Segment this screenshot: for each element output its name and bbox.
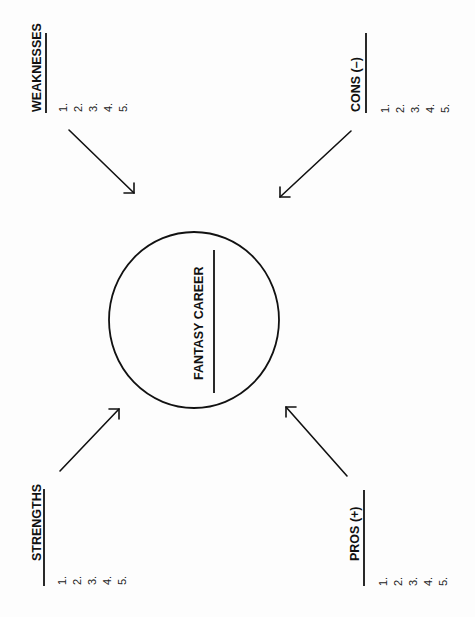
- pros-item-2[interactable]: 2.: [392, 577, 404, 586]
- strengths-item-4[interactable]: 4.: [101, 576, 113, 585]
- weaknesses-item-2[interactable]: 2.: [72, 103, 84, 112]
- strengths-item-5[interactable]: 5.: [116, 576, 128, 585]
- strengths-title: STRENGTHS: [30, 484, 44, 561]
- weaknesses-item-3[interactable]: 3.: [87, 103, 99, 112]
- cons-title: CONS (–): [349, 57, 363, 112]
- fantasy-career-title: FANTASY CAREER: [192, 267, 206, 380]
- pros-item-1[interactable]: 1.: [377, 577, 389, 586]
- career-worksheet: WEAKNESSES 1. 2. 3. 4. 5. CONS (–) 1. 2.…: [0, 0, 475, 617]
- fantasy-career-circle: FANTASY CAREER: [109, 232, 279, 408]
- weaknesses-title: WEAKNESSES: [30, 23, 44, 112]
- weaknesses-section: WEAKNESSES 1. 2. 3. 4. 5.: [30, 23, 129, 113]
- worksheet-diagram: WEAKNESSES 1. 2. 3. 4. 5. CONS (–) 1. 2.…: [0, 0, 475, 617]
- cons-item-3[interactable]: 3.: [409, 104, 421, 113]
- strengths-section: STRENGTHS 1. 2. 3. 4. 5.: [30, 484, 128, 586]
- weaknesses-item-5[interactable]: 5.: [117, 103, 129, 112]
- cons-item-5[interactable]: 5.: [439, 104, 451, 113]
- pros-item-4[interactable]: 4.: [422, 577, 434, 586]
- weaknesses-item-1[interactable]: 1.: [57, 103, 69, 112]
- cons-arrow-icon: [280, 131, 351, 197]
- cons-item-4[interactable]: 4.: [424, 104, 436, 113]
- strengths-item-2[interactable]: 2.: [71, 576, 83, 585]
- strengths-arrow-icon: [60, 409, 119, 471]
- pros-item-5[interactable]: 5.: [437, 577, 449, 586]
- strengths-item-1[interactable]: 1.: [56, 576, 68, 585]
- cons-item-1[interactable]: 1.: [379, 104, 391, 113]
- strengths-item-3[interactable]: 3.: [86, 576, 98, 585]
- pros-arrow-icon: [286, 407, 347, 476]
- pros-item-3[interactable]: 3.: [407, 577, 419, 586]
- pros-section: PROS (+) 1. 2. 3. 4. 5.: [348, 490, 449, 586]
- pros-title: PROS (+): [348, 506, 362, 561]
- cons-item-2[interactable]: 2.: [394, 104, 406, 113]
- weaknesses-arrow-icon: [69, 130, 134, 193]
- cons-section: CONS (–) 1. 2. 3. 4. 5.: [349, 33, 451, 113]
- weaknesses-item-4[interactable]: 4.: [102, 103, 114, 112]
